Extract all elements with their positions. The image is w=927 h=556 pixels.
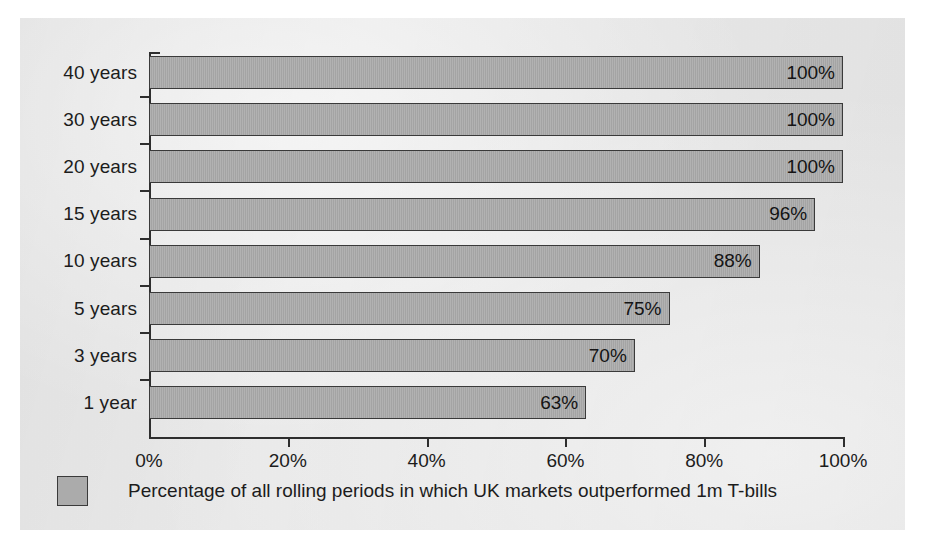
bar-value-label: 88% (714, 250, 752, 272)
legend-label: Percentage of all rolling periods in whi… (128, 480, 777, 502)
bar-texture (150, 57, 842, 88)
y-axis-label-20-years: 20 years (17, 156, 137, 178)
bar-1-year: 63% (149, 386, 586, 419)
x-axis-tick-label-0%: 0% (135, 450, 162, 472)
bar-value-label: 100% (786, 61, 835, 83)
legend-color-swatch (57, 476, 88, 506)
chart-canvas: 40 years30 years20 years15 years10 years… (0, 0, 927, 556)
bar-value-label: 100% (786, 108, 835, 130)
bar-30-years: 100% (149, 103, 843, 136)
bar-5-years: 75% (149, 292, 670, 325)
y-axis-tick (140, 190, 151, 192)
x-axis-tick-label-20%: 20% (269, 450, 307, 472)
x-axis-tick-label-100%: 100% (819, 450, 868, 472)
y-axis-tick (140, 96, 151, 98)
y-axis-label-5-years: 5 years (17, 298, 137, 320)
x-axis-tick-80% (704, 437, 706, 447)
bar-3-years: 70% (149, 339, 635, 372)
bar-10-years: 88% (149, 245, 760, 278)
y-axis-tick (140, 379, 151, 381)
x-axis-tick-label-40%: 40% (408, 450, 446, 472)
bar-20-years: 100% (149, 150, 843, 183)
x-axis-end-cap (843, 437, 845, 447)
bar-texture (150, 293, 669, 324)
x-axis-line (149, 437, 845, 439)
bar-value-label: 75% (623, 297, 661, 319)
bar-texture (150, 104, 842, 135)
bar-texture (150, 151, 842, 182)
y-axis-tick (140, 143, 151, 145)
y-axis-label-1-year: 1 year (17, 392, 137, 414)
bar-texture (150, 199, 814, 230)
x-axis-tick-60% (565, 437, 567, 447)
x-axis-tick-label-60%: 60% (546, 450, 584, 472)
y-axis-label-10-years: 10 years (17, 250, 137, 272)
y-axis-tick (140, 238, 151, 240)
chart-legend: Percentage of all rolling periods in whi… (57, 476, 777, 506)
y-axis-tick (140, 332, 151, 334)
bar-texture (150, 246, 759, 277)
y-axis-label-30-years: 30 years (17, 109, 137, 131)
x-axis-tick-label-80%: 80% (685, 450, 723, 472)
x-axis-tick-40% (427, 437, 429, 447)
bar-40-years: 100% (149, 56, 843, 89)
y-axis-label-3-years: 3 years (17, 345, 137, 367)
y-axis-tick (140, 285, 151, 287)
y-axis-top-cap (149, 52, 160, 54)
y-axis-label-40-years: 40 years (17, 62, 137, 84)
bar-texture (150, 340, 634, 371)
bar-value-label: 70% (589, 344, 627, 366)
bar-value-label: 100% (786, 155, 835, 177)
bar-texture (150, 387, 585, 418)
x-axis-tick-20% (288, 437, 290, 447)
bar-value-label: 96% (769, 203, 807, 225)
bar-value-label: 63% (540, 391, 578, 413)
y-axis-label-15-years: 15 years (17, 203, 137, 225)
bar-15-years: 96% (149, 198, 815, 231)
